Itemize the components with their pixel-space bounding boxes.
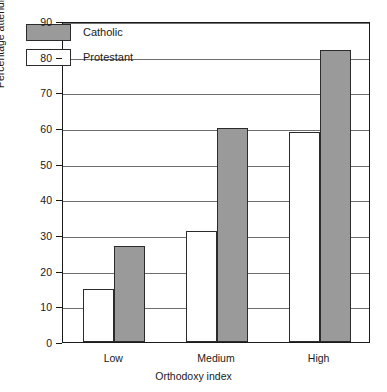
legend-label-protestant: Protestant [83,51,133,63]
y-tick-label-60: 60 [0,124,52,134]
y-tick-label-30: 30 [0,231,52,241]
y-tick-mark-70 [56,93,62,94]
y-tick-mark-40 [56,200,62,201]
bar-chart: Percentage attending church weekly Catho… [0,0,387,392]
chart-legend: Catholic Protestant [26,22,133,72]
y-tick-mark-50 [56,165,62,166]
bar-high-protestant [289,132,320,342]
x-tick-label-low: Low [104,352,123,364]
y-tick-label-20: 20 [0,267,52,277]
bar-high-catholic [320,50,351,342]
y-tick-label-50: 50 [0,160,52,170]
bar-medium-protestant [186,231,217,342]
x-axis-title: Orthodoxy index [0,370,387,382]
y-tick-mark-0 [56,343,62,344]
y-tick-mark-60 [56,129,62,130]
y-tick-mark-30 [56,236,62,237]
y-tick-label-70: 70 [0,88,52,98]
y-axis-title: Percentage attending church weekly [0,0,6,88]
y-tick-label-80: 80 [0,53,52,63]
y-tick-label-0: 0 [0,338,52,348]
legend-label-catholic: Catholic [83,26,123,38]
y-tick-mark-20 [56,272,62,273]
bar-low-protestant [83,289,114,343]
y-tick-label-90: 90 [0,17,52,27]
y-tick-mark-80 [56,58,62,59]
x-tick-label-medium: Medium [197,352,234,364]
bar-medium-catholic [217,128,248,342]
y-tick-label-10: 10 [0,302,52,312]
y-tick-mark-10 [56,307,62,308]
x-tick-label-high: High [308,352,330,364]
y-tick-label-40: 40 [0,195,52,205]
y-tick-mark-90 [56,22,62,23]
bar-low-catholic [114,246,145,342]
